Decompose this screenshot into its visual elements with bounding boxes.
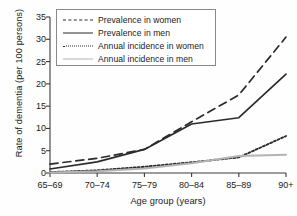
x-tick-label: 80–84 — [168, 180, 216, 190]
x-tick-label: 85–89 — [215, 180, 263, 190]
legend-swatch-dashed-icon — [63, 14, 93, 26]
y-tick-marks — [46, 17, 50, 173]
legend-swatch-solid-icon — [63, 27, 93, 39]
x-tick-label: 90+ — [262, 180, 297, 190]
x-tick-marks — [50, 173, 286, 177]
legend-item-prevalence-men: Prevalence in men — [63, 26, 215, 39]
legend-swatch-light-icon — [63, 53, 93, 65]
legend-swatch-dotted-icon — [63, 40, 93, 52]
chart-legend: Prevalence in women Prevalence in men An… — [56, 9, 216, 66]
legend-label: Annual incidence in men — [98, 54, 193, 64]
legend-label: Annual incidence in women — [98, 41, 204, 51]
legend-label: Prevalence in men — [98, 28, 170, 38]
x-tick-label: 65–69 — [26, 180, 74, 190]
legend-item-incidence-men: Annual incidence in men — [63, 52, 215, 65]
legend-item-prevalence-women: Prevalence in women — [63, 13, 215, 26]
legend-label: Prevalence in women — [98, 15, 181, 25]
x-tick-label: 75–79 — [120, 180, 168, 190]
legend-item-incidence-women: Annual incidence in women — [63, 39, 215, 52]
x-axis-label: Age group (years) — [50, 196, 286, 206]
x-tick-label: 70–74 — [73, 180, 121, 190]
dementia-rate-line-chart: Rate of dementia (per 100 persons) 05101… — [0, 0, 297, 216]
